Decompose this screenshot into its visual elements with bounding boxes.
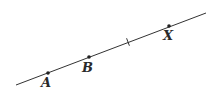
point-b-label: B (81, 60, 93, 75)
line-diagram: A B X (0, 0, 218, 98)
point-b-dot (87, 55, 91, 59)
point-a: A (39, 71, 51, 90)
point-a-label: A (39, 75, 51, 90)
point-x: X (162, 24, 174, 43)
point-x-label: X (162, 28, 174, 43)
